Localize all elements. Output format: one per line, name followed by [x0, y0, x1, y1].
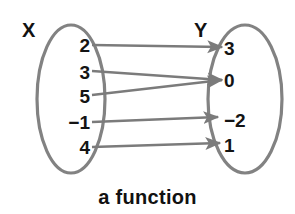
mapping-arrow	[92, 80, 222, 95]
domain-set-label: X	[22, 20, 35, 40]
mapping-arrow	[92, 71, 222, 80]
domain-element: 5	[44, 87, 90, 106]
codomain-element: 3	[224, 39, 270, 58]
codomain-set-label: Y	[194, 20, 207, 40]
mapping-arrow	[92, 143, 220, 147]
mapping-arrows	[92, 45, 222, 147]
domain-element: 4	[44, 138, 90, 157]
diagram-canvas	[0, 0, 295, 214]
mapping-arrow	[92, 45, 222, 47]
codomain-element: 1	[224, 136, 270, 155]
figure-caption: a function	[0, 186, 295, 209]
mapping-diagram-figure: X Y 2 3 5 −1 4 3 0 −2 1 a function	[0, 0, 295, 214]
mapping-arrow	[92, 117, 218, 122]
domain-element: 2	[44, 36, 90, 55]
domain-element: −1	[44, 113, 90, 132]
codomain-element: −2	[224, 111, 270, 130]
domain-element: 3	[44, 63, 90, 82]
codomain-element: 0	[224, 71, 270, 90]
